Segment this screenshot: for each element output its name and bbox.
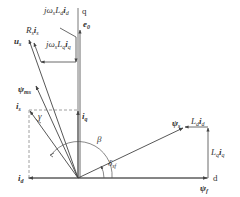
psi-ms-label: ψms	[18, 84, 32, 95]
jws-ld-id-label: jωsLdid	[43, 5, 70, 16]
psi-s-vector	[78, 128, 183, 178]
jws-ld-id-vector	[60, 28, 76, 37]
us-vector	[29, 40, 78, 178]
e0-label: e0	[83, 19, 90, 30]
d-axis-label: d	[213, 173, 218, 183]
ld-id-label: Ldid	[190, 116, 206, 127]
jws-lq-iq-label: jωsLqiq	[45, 39, 71, 50]
psi-f-label: ψf	[200, 183, 209, 194]
delta-sf-arc	[101, 166, 104, 178]
gamma-label: γ	[38, 111, 42, 121]
phasor-diagram: q d jωsLdid e0 jωsLqiq Rsis us ψms is iq…	[0, 0, 240, 197]
beta-arc	[50, 142, 112, 178]
rs-is-label: Rsis	[25, 25, 39, 36]
id-label: id	[18, 173, 25, 184]
q-axis-label: q	[82, 6, 87, 16]
is-vector	[30, 111, 78, 178]
us-label: us	[14, 36, 22, 47]
psi-ms-vector	[36, 86, 78, 178]
is-label: is	[16, 101, 22, 112]
lq-iq-label: Lqiq	[210, 147, 225, 158]
rs-is-vector	[34, 43, 41, 62]
beta-label: β	[96, 134, 102, 144]
psi-s-label: ψs	[172, 118, 181, 129]
iq-label: iq	[82, 111, 88, 122]
